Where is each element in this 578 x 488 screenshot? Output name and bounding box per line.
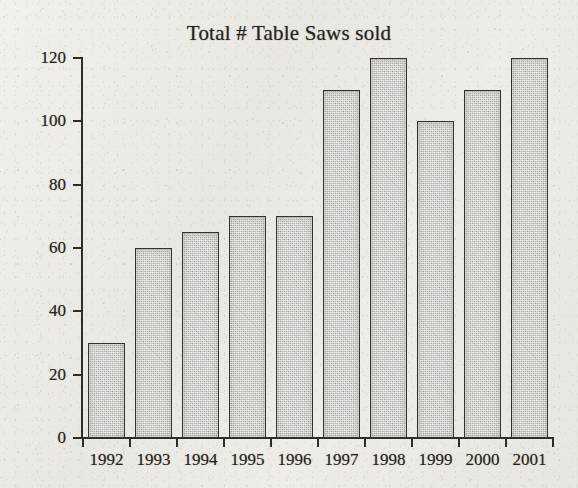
x-axis-tick bbox=[411, 438, 413, 447]
x-axis-tick-label: 1996 bbox=[271, 450, 319, 469]
y-axis-tick-label: 60 bbox=[6, 239, 66, 256]
chart-page: Total # Table Saws sold 020406080100120 … bbox=[0, 0, 578, 488]
x-axis-tick bbox=[364, 438, 366, 447]
x-axis-tick-label: 1992 bbox=[83, 450, 131, 469]
x-axis-tick bbox=[223, 438, 225, 447]
bar-1998 bbox=[370, 58, 407, 438]
bar-1995 bbox=[229, 216, 266, 438]
y-axis-tick bbox=[73, 184, 82, 186]
y-axis-tick bbox=[73, 120, 82, 122]
y-axis-tick-label: 120 bbox=[6, 49, 66, 66]
bar-2001 bbox=[511, 58, 548, 438]
y-axis-tick-label: 40 bbox=[6, 302, 66, 319]
y-axis-tick-label: 20 bbox=[6, 366, 66, 383]
x-axis-tick bbox=[82, 438, 84, 447]
bar-1997 bbox=[323, 90, 360, 438]
x-axis-tick bbox=[505, 438, 507, 447]
x-axis-tick-label: 1997 bbox=[318, 450, 366, 469]
bar-1993 bbox=[135, 248, 172, 438]
bar-1994 bbox=[182, 232, 219, 438]
x-axis-tick-label: 1994 bbox=[177, 450, 225, 469]
x-axis-tick bbox=[270, 438, 272, 447]
x-axis-tick bbox=[317, 438, 319, 447]
y-axis-tick-label: 80 bbox=[6, 176, 66, 193]
x-axis-tick-label: 1995 bbox=[224, 450, 272, 469]
x-axis-tick bbox=[458, 438, 460, 447]
x-axis-tick-label: 2000 bbox=[459, 450, 507, 469]
x-axis-tick bbox=[552, 438, 554, 447]
bar-chart-plot-area: 020406080100120 199219931994199519961997… bbox=[0, 0, 578, 488]
bar-1999 bbox=[417, 121, 454, 438]
x-axis-tick-label: 1993 bbox=[130, 450, 178, 469]
bar-2000 bbox=[464, 90, 501, 438]
x-axis-tick-label: 1998 bbox=[365, 450, 413, 469]
y-axis-tick bbox=[73, 247, 82, 249]
x-axis-tick bbox=[176, 438, 178, 447]
y-axis-tick bbox=[73, 57, 82, 59]
bar-1992 bbox=[88, 343, 125, 438]
x-axis-tick-label: 1999 bbox=[412, 450, 460, 469]
x-axis-tick bbox=[129, 438, 131, 447]
y-axis-tick bbox=[73, 437, 82, 439]
x-axis-tick-label: 2001 bbox=[506, 450, 554, 469]
y-axis-tick bbox=[73, 310, 82, 312]
bar-1996 bbox=[276, 216, 313, 438]
y-axis-tick bbox=[73, 374, 82, 376]
y-axis-tick-label: 100 bbox=[6, 112, 66, 129]
y-axis-tick-label: 0 bbox=[6, 429, 66, 446]
